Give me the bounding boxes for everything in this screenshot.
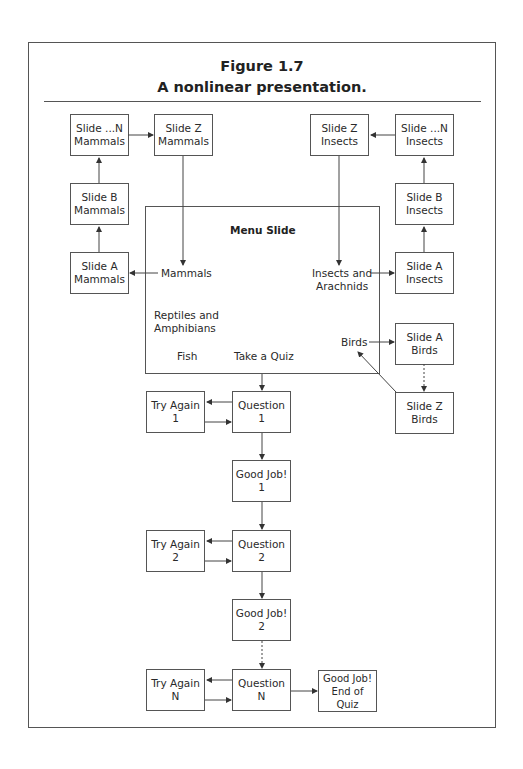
slide-a-insects: Slide A Insects [395, 252, 454, 294]
menu-item-take-quiz: Take a Quiz [234, 350, 294, 363]
slide-a-birds: Slide A Birds [395, 323, 454, 365]
slide-n-insects: Slide ...N Insects [395, 114, 454, 156]
question-1: Question 1 [232, 391, 291, 433]
menu-item-fish: Fish [177, 350, 197, 363]
try-again-2: Try Again 2 [146, 530, 205, 572]
menu-slide-title: Menu Slide [230, 224, 296, 236]
good-job-2: Good Job! 2 [232, 599, 291, 641]
slide-b-insects: Slide B Insects [395, 183, 454, 225]
menu-item-mammals: Mammals [161, 267, 212, 280]
try-again-n: Try Again N [146, 669, 205, 711]
menu-item-birds: Birds [341, 336, 367, 349]
question-2: Question 2 [232, 530, 291, 572]
slide-a-mammals: Slide A Mammals [70, 252, 129, 294]
slide-z-mammals: Slide Z Mammals [154, 114, 213, 156]
slide-n-mammals: Slide ...N Mammals [70, 114, 129, 156]
figure-number: Figure 1.7 [28, 58, 496, 74]
slide-z-insects: Slide Z Insects [310, 114, 369, 156]
figure-caption: A nonlinear presentation. [28, 79, 496, 95]
title-divider [44, 101, 481, 102]
try-again-1: Try Again 1 [146, 391, 205, 433]
menu-item-reptiles: Reptiles and Amphibians [154, 309, 219, 335]
slide-b-mammals: Slide B Mammals [70, 183, 129, 225]
menu-item-insects: Insects and Arachnids [312, 267, 372, 293]
slide-z-birds: Slide Z Birds [395, 392, 454, 434]
good-job-1: Good Job! 1 [232, 460, 291, 502]
good-job-end-of-quiz: Good Job! End of Quiz [318, 670, 377, 712]
question-n: Question N [232, 669, 291, 711]
